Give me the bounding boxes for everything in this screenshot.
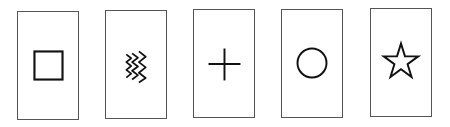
card-star: Star bbox=[370, 8, 432, 117]
card-square: Square bbox=[17, 11, 79, 120]
card-circle: Circle bbox=[281, 9, 343, 118]
star-icon bbox=[371, 9, 431, 116]
card-waves: Three wavy lines bbox=[105, 10, 167, 119]
card-cross: Plus / cross bbox=[193, 9, 255, 118]
cross-icon bbox=[194, 10, 254, 117]
circle-icon bbox=[282, 10, 342, 117]
square-icon bbox=[18, 12, 78, 119]
waves-icon bbox=[106, 11, 166, 118]
